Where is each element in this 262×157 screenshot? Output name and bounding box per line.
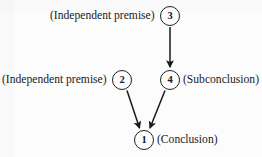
node-circle-1[interactable]: 1 [134, 130, 154, 150]
label-conclusion: (Conclusion) [157, 134, 218, 146]
arrow-4-to-1 [150, 91, 165, 129]
node-circle-4[interactable]: 4 [160, 70, 180, 90]
argument-diagram: (Independent premise) 3 (Independent pre… [0, 0, 262, 157]
node-circle-2[interactable]: 2 [112, 70, 132, 90]
node-circle-3[interactable]: 3 [160, 6, 180, 26]
label-subconclusion: (Subconclusion) [183, 74, 259, 86]
arrow-2-to-1 [127, 91, 140, 129]
label-independent-premise-3: (Independent premise) [50, 10, 155, 22]
label-independent-premise-2: (Independent premise) [2, 74, 107, 86]
